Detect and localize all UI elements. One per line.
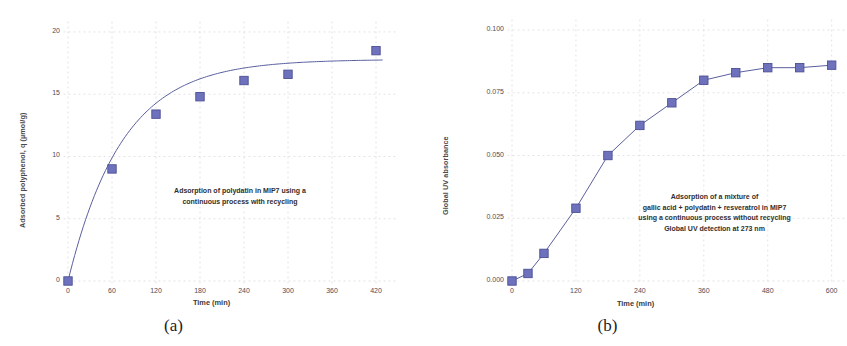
subfigure-caption-a: (a) xyxy=(0,316,385,336)
chart-panel-b: Global UV absorbance Adsorption of a mix… xyxy=(424,0,847,346)
x-tick-label-a: 180 xyxy=(180,287,220,294)
x-tick-label-b: 360 xyxy=(684,287,724,294)
plot-area-b xyxy=(424,0,847,346)
x-tick-label-a: 360 xyxy=(312,287,352,294)
chart-annotation-b: Adsorption of a mixture of gallic acid +… xyxy=(592,192,837,234)
x-tick-label-a: 60 xyxy=(92,287,132,294)
y-tick-label-b: 0.075 xyxy=(464,88,504,95)
y-tick-label-b: 0.025 xyxy=(464,213,504,220)
x-tick-label-b: 600 xyxy=(812,287,847,294)
chart-panel-a: Adsorbed polyphenol, q (µmol/g) Adsorpti… xyxy=(0,0,423,346)
y-tick-label-a: 0 xyxy=(20,276,60,283)
x-tick-label-a: 240 xyxy=(224,287,264,294)
x-tick-label-b: 0 xyxy=(492,287,532,294)
x-tick-label-b: 240 xyxy=(620,287,660,294)
y-tick-label-a: 5 xyxy=(20,214,60,221)
y-tick-label-a: 15 xyxy=(20,89,60,96)
chart-annotation-a: Adsorption of polydatin in MIP7 using a … xyxy=(108,186,372,207)
y-tick-label-b: 0.000 xyxy=(464,276,504,283)
x-axis-title-b: Time (min) xyxy=(424,299,847,308)
y-tick-label-b: 0.100 xyxy=(464,25,504,32)
plot-area-a xyxy=(0,0,423,346)
x-tick-label-b: 480 xyxy=(748,287,788,294)
x-axis-title-a: Time (min) xyxy=(0,298,423,307)
figure-container: Adsorbed polyphenol, q (µmol/g) Adsorpti… xyxy=(0,0,847,346)
y-tick-label-a: 20 xyxy=(20,27,60,34)
x-tick-label-b: 120 xyxy=(556,287,596,294)
x-tick-label-a: 120 xyxy=(136,287,176,294)
x-tick-label-a: 0 xyxy=(48,287,88,294)
x-tick-label-a: 420 xyxy=(356,287,396,294)
y-tick-label-a: 10 xyxy=(20,151,60,158)
subfigure-caption-b: (b) xyxy=(396,316,819,336)
y-tick-label-b: 0.050 xyxy=(464,151,504,158)
x-tick-label-a: 300 xyxy=(268,287,308,294)
